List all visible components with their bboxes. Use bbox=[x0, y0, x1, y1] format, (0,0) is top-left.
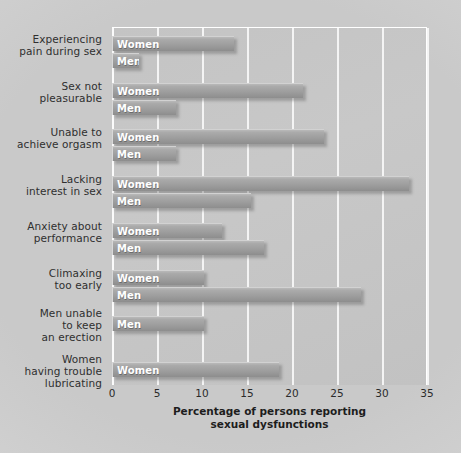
x-axis-title-line2: sexual dysfunctions bbox=[112, 418, 427, 431]
x-tick-label-30: 30 bbox=[375, 387, 388, 399]
bar-label-men: Men bbox=[117, 318, 141, 331]
category-line: Unable to bbox=[0, 126, 102, 138]
category-line: an erection bbox=[0, 331, 102, 343]
gridline-25 bbox=[337, 28, 339, 385]
category-line: achieve orgasm bbox=[0, 138, 102, 150]
bar-climaxing-too-early-men: Men bbox=[112, 287, 361, 302]
gridline-30 bbox=[382, 28, 384, 385]
x-tick-label-5: 5 bbox=[154, 387, 161, 399]
x-axis-title: Percentage of persons reporting sexual d… bbox=[112, 405, 427, 430]
bar-label-women: Women bbox=[117, 364, 159, 377]
category-line: Men unable bbox=[0, 307, 102, 319]
x-tick-label-20: 20 bbox=[285, 387, 298, 399]
category-line: Anxiety about bbox=[0, 220, 102, 232]
bar-label-women: Women bbox=[117, 178, 159, 191]
category-label-lacking-interest: Lacking interest in sex bbox=[0, 173, 102, 197]
category-label-sex-not-pleasurable: Sex not pleasurable bbox=[0, 80, 102, 104]
category-label-erection-trouble: Men unable to keep an erection bbox=[0, 307, 102, 344]
category-label-anxiety-performance: Anxiety about performance bbox=[0, 220, 102, 244]
x-axis: 05101520253035 bbox=[112, 385, 427, 407]
category-line: Lacking bbox=[0, 173, 102, 185]
bar-pain-during-sex-men: Men bbox=[112, 53, 139, 68]
bar-lacking-interest-men: Men bbox=[112, 193, 251, 208]
bar-unable-orgasm-women: Women bbox=[112, 129, 324, 144]
bar-anxiety-performance-women: Women bbox=[112, 223, 222, 238]
bar-label-women: Women bbox=[117, 131, 159, 144]
gridline-20 bbox=[292, 28, 294, 385]
gridline-35 bbox=[427, 28, 429, 385]
bar-lubrication-trouble-women: Women bbox=[112, 362, 279, 377]
category-line: Women bbox=[0, 353, 102, 365]
category-line: performance bbox=[0, 232, 102, 244]
bar-label-men: Men bbox=[117, 55, 139, 68]
category-line: pain during sex bbox=[0, 45, 102, 57]
bar-label-men: Men bbox=[117, 242, 141, 255]
bar-pain-during-sex-women: Women bbox=[112, 36, 234, 51]
x-tick-label-15: 15 bbox=[240, 387, 253, 399]
x-tick-label-0: 0 bbox=[109, 387, 116, 399]
category-line: Climaxing bbox=[0, 267, 102, 279]
bar-label-men: Men bbox=[117, 195, 141, 208]
category-label-unable-orgasm: Unable to achieve orgasm bbox=[0, 126, 102, 150]
bar-unable-orgasm-men: Men bbox=[112, 146, 176, 161]
bar-erection-trouble-men: Men bbox=[112, 316, 204, 331]
category-line: too early bbox=[0, 279, 102, 291]
bar-sex-not-pleasurable-men: Men bbox=[112, 100, 176, 115]
bar-label-women: Women bbox=[117, 225, 159, 238]
bar-anxiety-performance-men: Men bbox=[112, 240, 264, 255]
bar-label-women: Women bbox=[117, 272, 159, 285]
bar-climaxing-too-early-women: Women bbox=[112, 270, 204, 285]
category-line: Sex not bbox=[0, 80, 102, 92]
bar-label-women: Women bbox=[117, 38, 159, 51]
x-tick-label-25: 25 bbox=[330, 387, 343, 399]
category-line: having trouble bbox=[0, 365, 102, 377]
bar-label-men: Men bbox=[117, 102, 141, 115]
category-label-lubrication-trouble: Women having trouble lubricating bbox=[0, 353, 102, 390]
bar-label-women: Women bbox=[117, 85, 159, 98]
x-axis-title-line1: Percentage of persons reporting bbox=[112, 405, 427, 418]
category-label-climaxing-too-early: Climaxing too early bbox=[0, 267, 102, 291]
plot-area: WomenMenWomenMenWomenMenWomenMenWomenMen… bbox=[112, 27, 427, 385]
bar-sex-not-pleasurable-women: Women bbox=[112, 83, 303, 98]
x-tick-label-10: 10 bbox=[195, 387, 208, 399]
chart-figure: Experiencing pain during sex Sex not ple… bbox=[0, 0, 461, 453]
bar-lacking-interest-women: Women bbox=[112, 176, 409, 191]
x-tick-label-35: 35 bbox=[420, 387, 433, 399]
category-line: Experiencing bbox=[0, 33, 102, 45]
category-line: to keep bbox=[0, 319, 102, 331]
category-line: interest in sex bbox=[0, 185, 102, 197]
category-label-column: Experiencing pain during sex Sex not ple… bbox=[0, 27, 108, 385]
bar-label-men: Men bbox=[117, 148, 141, 161]
category-label-pain-during-sex: Experiencing pain during sex bbox=[0, 33, 102, 57]
category-line: pleasurable bbox=[0, 92, 102, 104]
bar-label-men: Men bbox=[117, 289, 141, 302]
category-line: lubricating bbox=[0, 377, 102, 389]
